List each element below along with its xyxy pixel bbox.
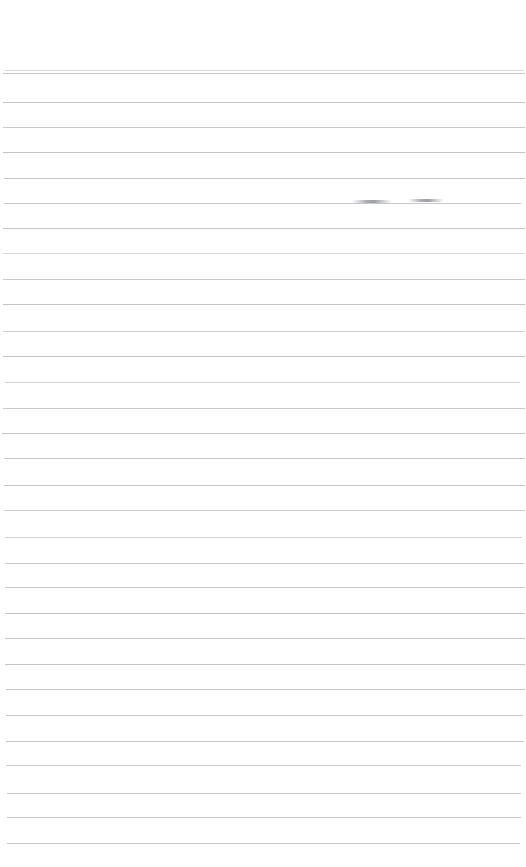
ink-smudge-left [352,200,392,203]
ruled-page [0,0,526,867]
ink-marks-layer [0,0,526,867]
ink-smudge-right [408,199,444,202]
